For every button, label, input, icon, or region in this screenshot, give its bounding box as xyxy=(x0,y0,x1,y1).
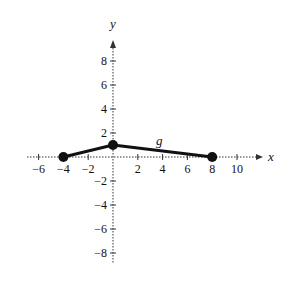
y-tick-label: −6 xyxy=(94,222,107,236)
x-tick-label: −4 xyxy=(57,162,70,176)
x-tick-label: 8 xyxy=(209,162,215,176)
y-axis-arrow-icon xyxy=(110,40,116,48)
y-tick-label: −2 xyxy=(94,174,107,188)
y-tick-label: −8 xyxy=(94,246,107,260)
data-point xyxy=(108,140,118,150)
x-axis-label: x xyxy=(267,149,274,164)
x-axis-arrow-icon xyxy=(256,154,263,160)
curve-label-g: g xyxy=(156,133,163,148)
axes xyxy=(27,40,263,263)
y-tick-label: 4 xyxy=(101,102,107,116)
x-tick-label: −6 xyxy=(32,162,45,176)
x-tick-label: 2 xyxy=(135,162,141,176)
y-tick-label: 8 xyxy=(101,54,107,68)
x-tick-label: 4 xyxy=(160,162,166,176)
y-tick-label: −4 xyxy=(94,198,107,212)
data-point xyxy=(207,152,217,162)
x-tick-label: 10 xyxy=(231,162,243,176)
y-tick-label: 6 xyxy=(101,78,107,92)
y-axis-label: y xyxy=(108,16,116,31)
x-tick-label: −2 xyxy=(82,162,95,176)
y-tick-label: 2 xyxy=(101,126,107,140)
x-tick-label: 6 xyxy=(184,162,190,176)
data-point xyxy=(58,152,68,162)
coordinate-plane: −6−4−2246810−8−6−4−22468 x y g xyxy=(0,0,290,290)
